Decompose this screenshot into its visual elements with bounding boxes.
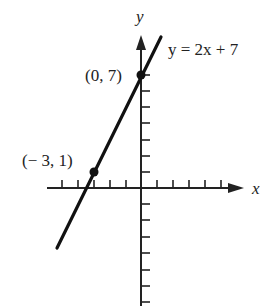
point-neg3-1 [90,168,99,177]
point-0-7 [137,71,146,80]
y-axis-label: y [134,7,144,26]
x-axis [47,183,244,193]
point-label-neg3-1: (− 3, 1) [22,151,73,170]
point-label-0-7: (0, 7) [85,66,122,85]
equation-label: y = 2x + 7 [168,40,239,59]
x-axis-label: x [251,179,260,198]
line-graph: y x y = 2x + 7 (0, 7) (− 3, 1) [0,0,280,306]
